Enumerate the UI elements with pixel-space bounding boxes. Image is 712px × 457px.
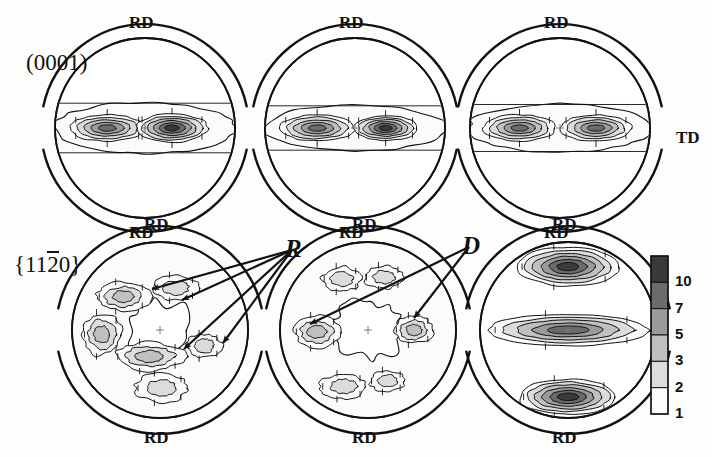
contour-level-7	[587, 125, 605, 131]
legend-swatch-5	[651, 309, 668, 335]
legend-swatch-2	[651, 361, 668, 387]
legend-swatch-1	[651, 388, 668, 414]
contour-level-2	[194, 339, 214, 353]
contour-level-10	[379, 126, 392, 131]
row-label-prismatic: {1120}	[14, 252, 81, 278]
prismatic-prefix: {11	[14, 252, 47, 277]
annotation-R: R	[285, 235, 302, 263]
rd-axis-label-bottom: RD	[339, 223, 364, 243]
contour-level-10	[165, 125, 180, 131]
annotation-D: D	[462, 232, 480, 260]
row-label-basal: (0001)	[26, 50, 87, 76]
legend-level-label: 2	[675, 378, 683, 395]
legend-level-label: 10	[675, 272, 692, 289]
contour-level-7	[308, 125, 326, 131]
contour-level-7	[99, 125, 117, 131]
pole-figure-pf-top-mid	[253, 24, 456, 232]
rd-axis-label-bottom: RD	[144, 428, 169, 448]
prismatic-suffix: 0}	[59, 252, 82, 277]
rd-axis-label: RD	[129, 13, 154, 33]
td-axis-label: TD	[676, 128, 700, 148]
legend	[651, 256, 668, 414]
legend-swatch-7	[651, 282, 668, 308]
contour-level-7	[511, 125, 529, 131]
rd-axis-label-bottom: RD	[129, 223, 154, 243]
legend-swatch-3	[651, 335, 668, 361]
pole-figure-pf-bot-left	[58, 226, 261, 434]
rd-axis-label-bottom: RD	[552, 428, 577, 448]
legend-level-label: 3	[675, 351, 683, 368]
pole-figure-pf-top-right	[458, 24, 661, 232]
legend-level-label: 5	[675, 325, 683, 342]
prismatic-overbar-digit: 2	[47, 252, 59, 278]
legend-swatch-10	[651, 256, 668, 282]
contour-level-3	[307, 325, 327, 338]
legend-level-label: 7	[675, 299, 683, 316]
rd-axis-label-bottom: RD	[544, 223, 569, 243]
rd-axis-label-bottom: RD	[352, 428, 377, 448]
rd-axis-label: RD	[339, 13, 364, 33]
rd-axis-label: RD	[544, 13, 569, 33]
contour-level-10	[557, 393, 579, 400]
legend-level-label: 1	[675, 404, 683, 421]
pole-figure-pf-bot-right	[466, 226, 669, 434]
contour-level-10	[557, 262, 579, 270]
